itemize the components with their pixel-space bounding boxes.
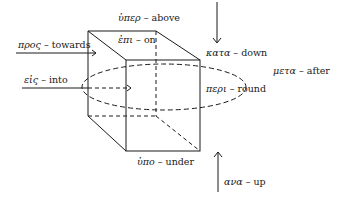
- greek-word: προς: [18, 39, 41, 50]
- english-word: down: [241, 47, 267, 58]
- cube-bottom-left-diagonal: [88, 116, 126, 151]
- greek-word: εἰς: [24, 74, 38, 85]
- prepositions-diagram: [0, 0, 341, 202]
- cube: [88, 31, 200, 151]
- english-word: above: [152, 12, 180, 23]
- greek-word: ἐπι: [118, 34, 133, 45]
- english-word: towards: [52, 39, 91, 50]
- label-meta: μετα – after: [273, 66, 330, 76]
- pros-arrow: [16, 50, 96, 56]
- label-hyper: ὑπερ – above: [118, 13, 180, 23]
- cube-top-right-diagonal: [156, 31, 200, 60]
- kata-arrow: [213, 2, 221, 43]
- label-hypo: ὑπο – under: [137, 157, 194, 167]
- cube-hidden-bottom-diagonal: [156, 116, 200, 151]
- greek-word: ὑπερ: [118, 12, 141, 23]
- label-ana: ανα – up: [224, 177, 266, 187]
- greek-word: κατα: [206, 47, 230, 58]
- label-peri: περι – round: [206, 84, 266, 94]
- english-word: into: [49, 74, 68, 85]
- greek-word: ὑπο: [137, 156, 155, 167]
- label-eis: εἰς – into: [24, 75, 68, 85]
- label-epi: ἐπι – on: [118, 35, 156, 45]
- cube-front-face: [126, 60, 200, 151]
- eis-arrow: [22, 85, 131, 91]
- label-pros: προς – towards: [18, 40, 91, 50]
- greek-word: περι: [206, 83, 227, 94]
- english-word: after: [307, 65, 330, 76]
- greek-word: μετα: [273, 65, 296, 76]
- english-word: on: [144, 34, 156, 45]
- english-word: round: [237, 83, 266, 94]
- ana-arrow: [214, 152, 222, 192]
- greek-word: ανα: [224, 176, 243, 187]
- english-word: up: [253, 176, 265, 187]
- label-kata: κατα – down: [206, 48, 267, 58]
- english-word: under: [166, 156, 194, 167]
